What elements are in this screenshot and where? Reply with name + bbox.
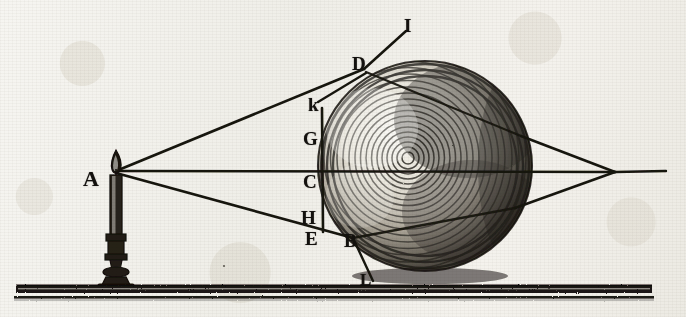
- optical-axis: [116, 171, 615, 172]
- table-edge: [14, 285, 654, 301]
- exit-ray-upper: [521, 136, 615, 172]
- label-B: B: [344, 231, 357, 250]
- globe-contact-shadow: [352, 268, 508, 284]
- chord-g-h: [322, 108, 323, 232]
- candle-body: [110, 175, 122, 235]
- label-H: H: [301, 208, 316, 227]
- label-C: C: [303, 172, 317, 191]
- label-E: E: [305, 229, 318, 248]
- optics-diagram: [0, 0, 686, 317]
- engraving-plate: A I D k G C H E B L: [0, 0, 686, 317]
- label-I: I: [404, 16, 411, 35]
- plate-speck: [223, 265, 225, 267]
- axis-beyond-focus: [615, 171, 666, 172]
- label-D: D: [352, 54, 366, 73]
- label-L: L: [360, 271, 371, 288]
- label-A: A: [83, 168, 99, 190]
- label-G: G: [303, 129, 318, 148]
- label-k: k: [308, 95, 319, 114]
